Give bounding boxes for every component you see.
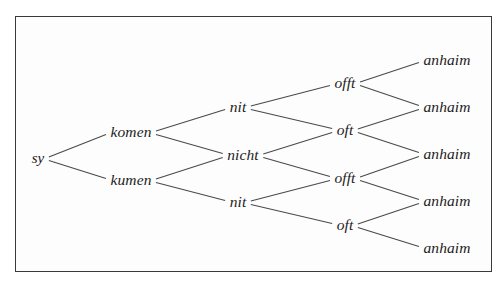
tree-edge-n9-n13 <box>358 204 419 225</box>
tree-node-n4: nicht <box>227 147 259 163</box>
tree-edge-n6-n10 <box>360 63 419 83</box>
tree-edge-n7-n11 <box>358 110 419 130</box>
tree-edge-n3-n7 <box>251 110 332 129</box>
tree-node-n10: anhaim <box>423 52 470 68</box>
tree-node-n12: anhaim <box>423 146 470 162</box>
tree-node-n3: nit <box>230 99 247 115</box>
tree-node-n13: anhaim <box>423 193 470 209</box>
tree-node-n2: kumen <box>111 172 152 188</box>
tree-edge-n2-n5 <box>156 183 225 201</box>
tree-edge-n4-n7 <box>263 133 332 155</box>
tree-edge-n8-n12 <box>360 157 419 178</box>
tree-edge-n5-n8 <box>251 181 330 202</box>
tree-edge-n5-n9 <box>251 205 332 224</box>
tree-node-n6: offt <box>334 75 355 91</box>
tree-edge-n6-n11 <box>360 86 419 106</box>
tree-node-n7: oft <box>337 122 354 138</box>
tree-edge-n1-n3 <box>156 110 225 132</box>
tree-edge-n3-n6 <box>251 86 330 107</box>
tree-node-n9: oft <box>337 217 354 233</box>
tree-node-n1: komen <box>111 124 152 140</box>
tree-edge-n7-n12 <box>358 133 419 153</box>
tree-node-n14: anhaim <box>423 240 470 256</box>
tree-edge-n0-n1 <box>49 135 106 158</box>
tree-edge-n9-n14 <box>358 228 419 247</box>
tree-node-n11: anhaim <box>423 99 470 115</box>
tree-node-n5: nit <box>230 194 247 210</box>
tree-edge-n1-n4 <box>156 135 223 154</box>
tree-node-n0: sy <box>32 151 45 166</box>
tree-edge-n8-n13 <box>360 181 419 200</box>
tree-edge-n4-n8 <box>263 158 330 177</box>
tree-node-n8: offt <box>334 170 355 186</box>
tree-edge-n2-n4 <box>156 158 223 180</box>
tree-edge-n0-n2 <box>49 161 106 179</box>
